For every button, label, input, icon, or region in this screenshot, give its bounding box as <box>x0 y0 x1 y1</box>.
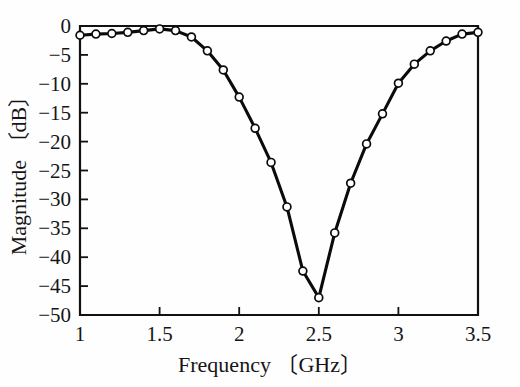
data-point-marker <box>140 27 148 35</box>
data-point-marker <box>267 159 275 167</box>
data-point-marker <box>283 203 291 211</box>
plot-axes <box>80 26 478 315</box>
y-tick-label: −15 <box>38 101 71 125</box>
data-point-marker <box>172 27 180 35</box>
data-point-marker <box>92 30 100 38</box>
data-point-marker <box>410 60 418 68</box>
data-point-marker <box>156 25 164 33</box>
data-point-marker <box>442 37 450 45</box>
chart-page: 0−5−10−15−20−25−30−35−40−45−5011.522.533… <box>0 0 520 387</box>
axis-tick-labels: 0−5−10−15−20−25−30−35−40−45−5011.522.533… <box>38 14 491 346</box>
x-tick-label: 3.5 <box>465 322 491 346</box>
data-point-marker <box>203 47 211 55</box>
data-point-marker <box>235 93 243 101</box>
x-tick-label: 1.5 <box>146 322 172 346</box>
data-series-magnitude <box>80 29 478 298</box>
y-tick-label: −50 <box>38 303 71 327</box>
data-point-marker <box>219 66 227 74</box>
y-tick-label: −5 <box>49 43 71 67</box>
data-point-marker <box>251 124 259 132</box>
y-tick-label: −20 <box>38 130 71 154</box>
data-point-marker <box>108 30 116 38</box>
data-point-marker <box>315 294 323 302</box>
data-point-marker <box>188 33 196 41</box>
data-point-markers <box>76 25 482 302</box>
data-point-marker <box>347 179 355 187</box>
frequency-response-chart: 0−5−10−15−20−25−30−35−40−45−5011.522.533… <box>0 0 520 387</box>
series-line <box>80 29 478 298</box>
data-point-marker <box>76 31 84 39</box>
data-point-marker <box>474 28 482 36</box>
y-tick-label: −25 <box>38 159 71 183</box>
data-point-marker <box>458 30 466 38</box>
x-tick-label: 2.5 <box>306 322 332 346</box>
data-point-marker <box>379 110 387 118</box>
y-tick-label: −10 <box>38 72 71 96</box>
data-point-marker <box>124 28 132 36</box>
y-tick-label: 0 <box>61 14 72 38</box>
x-axis-label: Frequency 〔GHz〕 <box>178 352 362 377</box>
y-tick-label: −45 <box>38 274 71 298</box>
data-point-marker <box>331 229 339 237</box>
y-tick-label: −35 <box>38 216 71 240</box>
axis-ticks <box>80 26 478 315</box>
y-axis-label: Magnitude 〔dB〕 <box>6 85 31 256</box>
data-point-marker <box>395 79 403 87</box>
data-point-marker <box>299 267 307 275</box>
x-tick-label: 2 <box>234 322 245 346</box>
x-tick-label: 1 <box>75 322 86 346</box>
data-point-marker <box>426 47 434 55</box>
y-tick-label: −40 <box>38 245 71 269</box>
y-tick-label: −30 <box>38 187 71 211</box>
data-point-marker <box>363 140 371 148</box>
x-tick-label: 3 <box>393 322 404 346</box>
